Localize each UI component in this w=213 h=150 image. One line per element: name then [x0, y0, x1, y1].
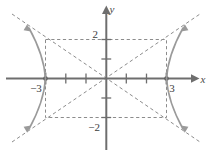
x-axis-arrowhead — [191, 74, 200, 83]
y-tick-label-plus2: 2 — [93, 28, 99, 40]
y-tick-label-minus2: −2 — [88, 121, 100, 133]
arrow-left-lower — [24, 125, 31, 132]
arrow-left-upper — [24, 24, 31, 31]
arrow-right-lower — [181, 125, 188, 132]
x-axis-label: x — [200, 73, 206, 85]
right-branch-upper — [167, 28, 184, 79]
y-axis-label: y — [109, 3, 115, 15]
x-tick-label-minus3: −3 — [30, 82, 42, 94]
hyperbola-plot: −3 3 2 −2 x y — [0, 0, 213, 150]
arrow-right-upper — [181, 24, 188, 31]
hyperbola-figure: −3 3 2 −2 x y — [0, 0, 213, 150]
x-tick-label-plus3: 3 — [169, 82, 175, 94]
